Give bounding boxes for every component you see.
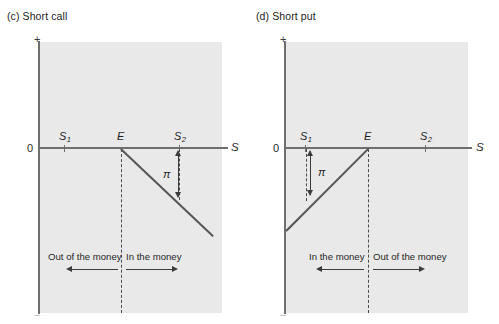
label-s2-sub-short-put: 2 [428, 135, 432, 144]
premium-label-short-call: π [163, 169, 170, 180]
x-axis-short-put [284, 147, 472, 149]
label-s2-short-put: S2 [420, 131, 432, 142]
tick-s1-short-call [64, 145, 65, 152]
label-e-short-call: E [117, 131, 124, 142]
panel-title-short-call: (c) Short call [7, 10, 67, 22]
moneyness-arrow-left-line-short-call [72, 269, 118, 270]
premium-arrow-head-up-short-call [175, 150, 181, 156]
label-s1-short-call: S1 [59, 131, 71, 142]
label-s2-text: S [174, 130, 181, 142]
panel-short-put: (d) Short put + – 0 S S1 E S2 π [249, 0, 498, 324]
label-e-short-put: E [364, 131, 371, 142]
dashed-line-e-short-put [368, 149, 369, 313]
moneyness-arrow-left-head-short-call [66, 266, 72, 272]
y-axis-short-put [284, 41, 286, 314]
label-s1-text-short-put: S [300, 130, 307, 142]
label-e-text-short-put: E [364, 130, 371, 142]
moneyness-right-short-call: In the money [126, 252, 181, 262]
x-axis-short-call [38, 147, 228, 149]
premium-arrow-head-down-short-call [175, 192, 181, 198]
y-axis-zero-label-short-put: 0 [273, 143, 279, 154]
label-s2-short-call: S2 [174, 131, 186, 142]
plot-area-short-put [285, 42, 468, 313]
label-s1-sub-short-put: 1 [308, 135, 312, 144]
moneyness-arrow-right-head-short-call [172, 266, 178, 272]
label-s1-sub: 1 [67, 135, 71, 144]
dashed-line-e-short-call [121, 149, 122, 313]
x-axis-label-short-put: S [476, 142, 484, 154]
label-s2-text-short-put: S [420, 130, 427, 142]
moneyness-arrow-right-head-short-put [419, 266, 425, 272]
moneyness-left-short-put: In the money [309, 252, 364, 262]
plot-area-short-call [40, 42, 222, 313]
moneyness-left-short-call: Out of the money [48, 252, 122, 262]
moneyness-arrow-right-line-short-call [126, 269, 172, 270]
label-s1-text: S [59, 130, 66, 142]
x-axis-label-short-call: S [231, 142, 239, 154]
moneyness-right-short-put: Out of the money [373, 252, 447, 262]
label-e-text: E [117, 130, 124, 142]
y-axis-minus-label: – [34, 309, 40, 320]
premium-arrow-short-call [178, 151, 179, 197]
moneyness-arrow-right-line-short-put [373, 269, 419, 270]
label-s2-sub: 2 [182, 135, 186, 144]
label-s1-short-put: S1 [300, 131, 312, 142]
figure-payoff-diagrams: (c) Short call + – 0 S S1 E S2 π [0, 0, 499, 324]
y-axis-plus-label-short-put: + [280, 34, 286, 45]
tick-s2-short-put [425, 145, 426, 152]
premium-arrow-head-up-short-put [307, 150, 313, 156]
y-axis-minus-label-short-put: – [280, 309, 286, 320]
y-axis-short-call [38, 41, 40, 314]
moneyness-arrow-left-line-short-put [322, 269, 364, 270]
y-axis-plus-label: + [34, 34, 40, 45]
premium-arrow-head-down-short-put [307, 190, 313, 196]
premium-arrow-short-put [310, 151, 311, 195]
y-axis-zero-label: 0 [27, 143, 33, 154]
premium-label-short-put: π [318, 167, 325, 178]
panel-title-short-put: (d) Short put [256, 10, 316, 22]
moneyness-arrow-left-head-short-put [316, 266, 322, 272]
panel-short-call: (c) Short call + – 0 S S1 E S2 π [0, 0, 249, 324]
